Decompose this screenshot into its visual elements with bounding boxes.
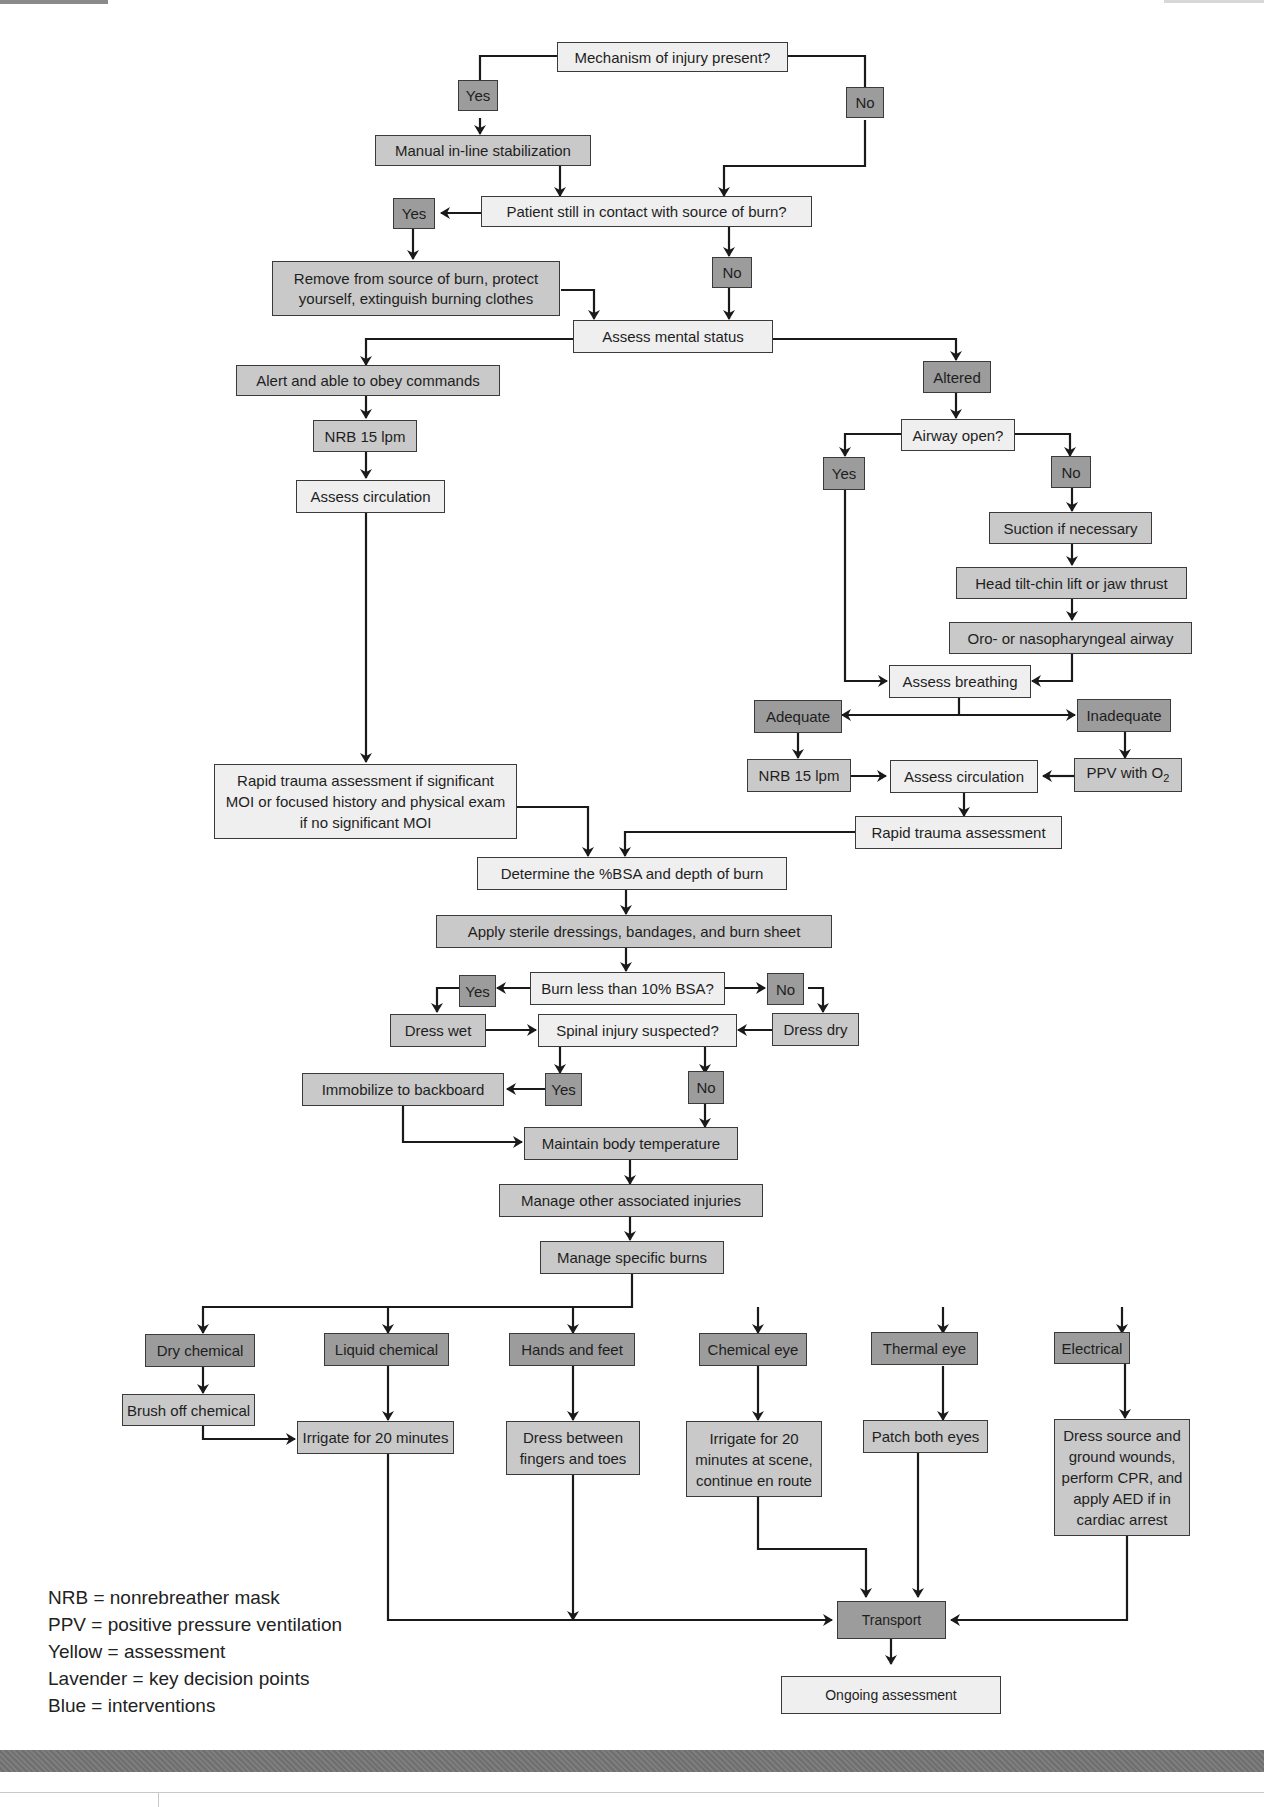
node-assess-breathing: Assess breathing: [889, 665, 1031, 698]
node-transport: Transport: [837, 1601, 946, 1639]
node-label: Manage other associated injuries: [521, 1190, 741, 1211]
node-label: Apply sterile dressings, bandages, and b…: [468, 921, 801, 942]
node-label: Manage specific burns: [557, 1247, 707, 1268]
node-irrigate-at-scene: Irrigate for 20 minutes at scene, contin…: [686, 1421, 822, 1497]
legend-item-ppv: PPV = positive pressure ventilation: [48, 1611, 342, 1638]
node-irrigate-20-minutes: Irrigate for 20 minutes: [297, 1421, 454, 1454]
node-altered: Altered: [923, 361, 991, 393]
node-label: Oro- or nasopharyngeal airway: [968, 628, 1174, 649]
node-label: No: [776, 979, 795, 1000]
node-label: No: [696, 1077, 715, 1098]
node-label: Yes: [832, 463, 856, 484]
node-label: Hands and feet: [521, 1339, 623, 1360]
node-no-airway: No: [1051, 456, 1091, 488]
node-label: No: [1061, 462, 1080, 483]
node-label: Inadequate: [1086, 705, 1161, 726]
node-label: NRB 15 lpm: [325, 426, 406, 447]
node-yes-spinal: Yes: [545, 1073, 582, 1106]
node-immobilize-backboard: Immobilize to backboard: [302, 1073, 504, 1106]
node-label: Adequate: [766, 706, 830, 727]
node-label: Thermal eye: [883, 1338, 966, 1359]
node-inadequate: Inadequate: [1077, 699, 1171, 732]
node-hands-and-feet: Hands and feet: [509, 1333, 635, 1366]
node-label: Maintain body temperature: [542, 1133, 720, 1154]
node-airway-open: Airway open?: [901, 419, 1015, 451]
node-label: Assess breathing: [902, 671, 1017, 692]
node-electrical: Electrical: [1054, 1332, 1130, 1364]
footer-rule: [0, 1792, 1264, 1793]
node-no-spinal: No: [688, 1071, 724, 1104]
node-manual-stabilization: Manual in-line stabilization: [375, 135, 591, 166]
node-label: Assess mental status: [602, 326, 744, 347]
node-label: Spinal injury suspected?: [556, 1020, 719, 1041]
footer-tick: [158, 1793, 159, 1807]
node-apply-sterile-dressings: Apply sterile dressings, bandages, and b…: [436, 915, 832, 948]
node-label: Rapid trauma assessment: [871, 822, 1045, 843]
node-label: Suction if necessary: [1003, 518, 1137, 539]
node-spinal-injury: Spinal injury suspected?: [538, 1014, 737, 1047]
node-no-burn: No: [767, 973, 804, 1005]
node-label: Dress between fingers and toes: [513, 1427, 633, 1469]
node-mechanism-of-injury: Mechanism of injury present?: [557, 42, 788, 72]
node-yes-airway: Yes: [823, 457, 865, 490]
node-label: Patch both eyes: [872, 1426, 980, 1447]
legend: NRB = nonrebreather mask PPV = positive …: [48, 1584, 342, 1719]
node-alert-obey-commands: Alert and able to obey commands: [236, 365, 500, 396]
node-yes-contact: Yes: [393, 198, 435, 229]
legend-item-nrb: NRB = nonrebreather mask: [48, 1584, 342, 1611]
node-manage-other-injuries: Manage other associated injuries: [499, 1184, 763, 1217]
node-dry-chemical: Dry chemical: [145, 1334, 255, 1367]
node-label: No: [855, 92, 874, 113]
node-label: Dress source and ground wounds, perform …: [1061, 1425, 1183, 1530]
node-label: Manual in-line stabilization: [395, 140, 571, 161]
node-assess-circulation-left: Assess circulation: [296, 480, 445, 513]
node-label: Yes: [551, 1079, 575, 1100]
node-manage-specific-burns: Manage specific burns: [540, 1241, 724, 1274]
ppv-text: PPV with O: [1087, 764, 1164, 781]
node-rapid-trauma-left: Rapid trauma assessment if significant M…: [214, 764, 517, 839]
node-label: Assess circulation: [904, 766, 1024, 787]
node-label: Rapid trauma assessment if significant M…: [221, 770, 510, 833]
node-label: Burn less than 10% BSA?: [541, 978, 714, 999]
node-label: Remove from source of burn, protect your…: [279, 269, 553, 309]
node-label: NRB 15 lpm: [759, 765, 840, 786]
node-no-mechanism: No: [846, 87, 884, 118]
node-liquid-chemical: Liquid chemical: [324, 1333, 449, 1366]
node-label: Dress dry: [783, 1019, 847, 1040]
node-label: Yes: [465, 981, 489, 1002]
node-yes-burn: Yes: [459, 975, 496, 1007]
node-label: Electrical: [1062, 1338, 1123, 1359]
node-ppv-with-o2: PPV with O2: [1074, 758, 1182, 792]
node-label: Yes: [466, 85, 490, 106]
node-patch-both-eyes: Patch both eyes: [863, 1420, 988, 1453]
node-ongoing-assessment: Ongoing assessment: [781, 1676, 1001, 1714]
node-label: Dry chemical: [157, 1340, 244, 1361]
node-burn-less-than-10: Burn less than 10% BSA?: [530, 972, 725, 1005]
node-label: Assess circulation: [310, 486, 430, 507]
node-dress-wet: Dress wet: [390, 1014, 486, 1047]
node-nrb-left: NRB 15 lpm: [313, 420, 417, 452]
node-contact-with-source: Patient still in contact with source of …: [481, 196, 812, 227]
node-rapid-trauma-right: Rapid trauma assessment: [855, 816, 1062, 849]
node-dress-between-fingers: Dress between fingers and toes: [506, 1421, 640, 1475]
legend-item-yellow: Yellow = assessment: [48, 1638, 342, 1665]
node-maintain-body-temperature: Maintain body temperature: [524, 1127, 738, 1160]
node-label: Mechanism of injury present?: [575, 47, 771, 68]
node-label: Ongoing assessment: [825, 1685, 957, 1706]
node-label: Irrigate for 20 minutes at scene, contin…: [693, 1428, 815, 1491]
node-nrb-right: NRB 15 lpm: [747, 759, 851, 792]
node-label: Transport: [862, 1610, 921, 1631]
node-label: Altered: [933, 367, 981, 388]
node-yes-mechanism: Yes: [458, 80, 498, 111]
node-determine-bsa: Determine the %BSA and depth of burn: [477, 857, 787, 890]
node-label: Chemical eye: [708, 1339, 799, 1360]
page-corner-mark-right: [1164, 0, 1264, 3]
node-label: Head tilt-chin lift or jaw thrust: [975, 573, 1168, 594]
node-assess-mental-status: Assess mental status: [573, 320, 773, 353]
node-head-tilt: Head tilt-chin lift or jaw thrust: [956, 567, 1187, 599]
node-label: Yes: [402, 203, 426, 224]
node-label: PPV with O2: [1087, 762, 1170, 789]
node-label: Determine the %BSA and depth of burn: [501, 863, 764, 884]
node-assess-circulation-right: Assess circulation: [890, 760, 1038, 793]
node-remove-from-source: Remove from source of burn, protect your…: [272, 261, 560, 316]
